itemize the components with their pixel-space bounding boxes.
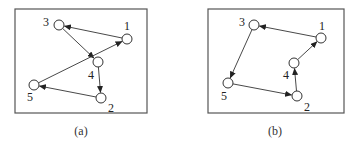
node-3 (54, 20, 64, 30)
node-label-5: 5 (27, 90, 33, 104)
node-2 (96, 93, 106, 103)
panels: 12345(a)12345(b) (15, 9, 344, 138)
panel-b: 12345(b) (208, 9, 344, 138)
node-label-1: 1 (124, 19, 130, 33)
node-1 (122, 34, 132, 44)
node-3 (249, 20, 259, 30)
tour-diagram: 12345(a)12345(b) (0, 0, 353, 146)
node-label-2: 2 (108, 101, 114, 115)
node-4 (289, 58, 299, 68)
panel-a: 12345(a) (15, 9, 147, 138)
node-label-2: 2 (304, 100, 310, 114)
node-label-4: 4 (88, 68, 94, 82)
node-label-1: 1 (319, 19, 325, 33)
node-4 (93, 57, 103, 67)
panel-caption-b: (b) (268, 124, 282, 138)
node-label-4: 4 (283, 68, 289, 82)
node-5 (29, 80, 39, 90)
panel-caption-a: (a) (74, 124, 87, 138)
node-label-3: 3 (43, 15, 49, 29)
node-1 (316, 33, 326, 43)
node-label-3: 3 (239, 15, 245, 29)
node-2 (292, 91, 302, 101)
node-label-5: 5 (221, 89, 227, 103)
node-5 (223, 78, 233, 88)
